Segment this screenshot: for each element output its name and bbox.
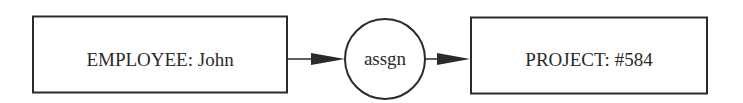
edge-employee-to-relation	[287, 53, 345, 65]
project-concept-label: PROJECT: #584	[525, 49, 653, 70]
employee-concept-label: EMPLOYEE: John	[86, 49, 234, 70]
conceptual-graph: EMPLOYEE: John assgn PROJECT: #584	[0, 0, 743, 103]
arrowhead-icon	[437, 53, 470, 65]
assgn-relation-node: assgn	[345, 19, 425, 99]
arrowhead-icon	[311, 53, 345, 65]
edge-relation-to-project	[425, 53, 470, 65]
employee-concept-node: EMPLOYEE: John	[33, 17, 287, 93]
relation-label: assgn	[364, 48, 407, 69]
project-concept-node: PROJECT: #584	[471, 18, 707, 94]
